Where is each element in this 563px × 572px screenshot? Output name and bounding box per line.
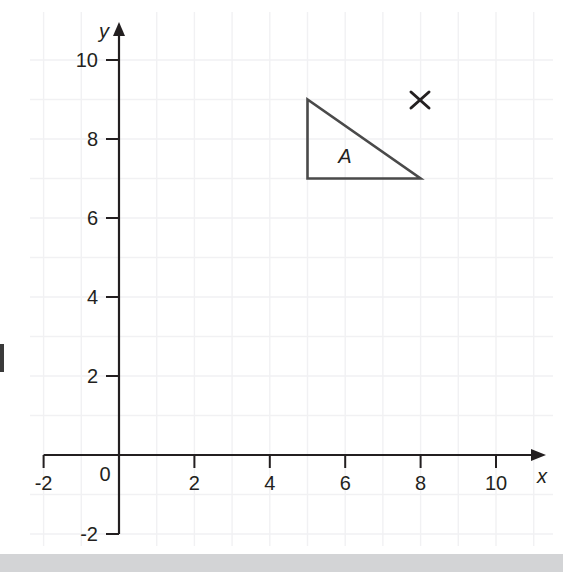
coordinate-plane: -2 2 4 6 8 10 10 8 6 4 2 -2 0 x y A — [0, 0, 563, 572]
x-tick-label-6: 6 — [340, 472, 351, 494]
y-tick-label-8: 8 — [87, 128, 98, 150]
bottom-gray-band — [0, 554, 563, 572]
y-tick-label-2: 2 — [87, 365, 98, 387]
x-axis-label: x — [536, 465, 548, 487]
origin-label: 0 — [99, 463, 110, 485]
x-tick-label-10: 10 — [485, 472, 507, 494]
triangle-a-label: A — [337, 145, 351, 167]
x-axis-arrow-icon — [531, 449, 546, 461]
y-tick-label--2: -2 — [80, 523, 98, 545]
x-tick-label--2: -2 — [35, 472, 53, 494]
x-tick-label-8: 8 — [415, 472, 426, 494]
axis-arrowheads — [113, 22, 546, 461]
y-axis-label: y — [97, 20, 110, 42]
y-tick-label-10: 10 — [76, 49, 98, 71]
x-axis-ticks — [44, 455, 496, 468]
y-axis-arrow-icon — [113, 22, 125, 36]
x-tick-label-2: 2 — [189, 472, 200, 494]
y-tick-label-6: 6 — [87, 207, 98, 229]
y-tick-label-4: 4 — [87, 286, 98, 308]
x-tick-label-4: 4 — [264, 472, 275, 494]
page-edge-artifact — [0, 344, 4, 372]
figure-canvas: -2 2 4 6 8 10 10 8 6 4 2 -2 0 x y A — [0, 0, 563, 572]
